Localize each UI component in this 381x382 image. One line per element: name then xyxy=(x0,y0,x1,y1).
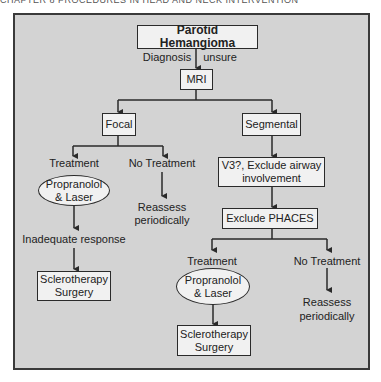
edge-label-diagnosis: Diagnosis xyxy=(143,51,191,64)
label-segmental-treatment: Treatment xyxy=(187,255,237,268)
node-exclude-phaces: Exclude PHACES xyxy=(222,208,318,229)
node-label-line2: & Laser xyxy=(185,287,241,300)
node-label: Focal xyxy=(106,118,133,131)
node-label: MRI xyxy=(186,73,206,86)
node-label-line2: involvement xyxy=(222,172,322,185)
node-mri: MRI xyxy=(180,69,213,90)
label-segmental-no-treatment: No Treatment xyxy=(294,255,361,268)
label-focal-no-treatment: No Treatment xyxy=(129,157,196,170)
node-focal: Focal xyxy=(102,113,136,136)
node-label-line2: Surgery xyxy=(40,286,108,299)
node-label: Parotid Hemangioma xyxy=(138,24,257,50)
node-label-line1: Sclerotherapy xyxy=(180,328,248,341)
node-label-line1: Sclerotherapy xyxy=(40,273,108,286)
node-label: Exclude PHACES xyxy=(226,212,313,225)
label-focal-reassess-line2: periodically xyxy=(134,214,189,227)
node-parotid-hemangioma: Parotid Hemangioma xyxy=(137,25,258,49)
node-segmental-propranolol-laser: Propranolol & Laser xyxy=(176,268,250,305)
node-label-line2: Surgery xyxy=(180,341,248,354)
node-label-line1: Propranolol xyxy=(185,274,241,287)
node-focal-sclerotherapy-surgery: Sclerotherapy Surgery xyxy=(37,271,111,301)
node-segmental-sclerotherapy-surgery: Sclerotherapy Surgery xyxy=(177,325,251,356)
node-focal-propranolol-laser: Propranolol & Laser xyxy=(38,175,110,206)
node-label-line1: Propranolol xyxy=(46,178,102,191)
node-segmental: Segmental xyxy=(242,113,301,136)
node-label-line2: & Laser xyxy=(46,191,102,204)
label-segmental-reassess-line1: Reassess xyxy=(303,296,351,309)
edge-label-unsure: unsure xyxy=(203,51,237,64)
label-inadequate-response: Inadequate response xyxy=(22,233,125,246)
node-label: Segmental xyxy=(245,118,298,131)
label-focal-treatment: Treatment xyxy=(49,157,99,170)
label-focal-reassess-line1: Reassess xyxy=(138,201,186,214)
node-label-line1: V3?, Exclude airway xyxy=(222,159,322,172)
label-segmental-reassess-line2: periodically xyxy=(299,310,354,323)
node-v3-exclude-airway: V3?, Exclude airway involvement xyxy=(218,157,325,187)
